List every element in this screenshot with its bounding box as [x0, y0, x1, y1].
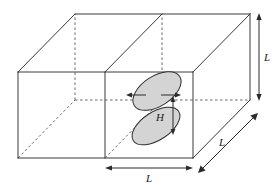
left-spread-arrowhead-icon [126, 93, 132, 98]
depth-dimension-label: L [218, 136, 225, 148]
width-arrowhead-left-icon [105, 165, 112, 170]
width-arrowhead-right-icon [186, 165, 193, 170]
depth-dimension-shaft [201, 116, 255, 170]
height-dimension-label: H [155, 111, 165, 123]
vertical-dimension: L [256, 13, 270, 101]
vertical-arrowhead-up-icon [256, 13, 261, 20]
vertical-arrowhead-down-icon [256, 94, 261, 101]
hidden-edge-bottom-left-diagonal [18, 100, 75, 158]
blob-group [126, 64, 188, 153]
right-spread-arrowhead-icon [175, 93, 181, 98]
width-dimension: L [105, 165, 193, 184]
vertical-dimension-label: L [263, 51, 270, 63]
edge-top-left-diagonal [18, 14, 75, 72]
figure-container: H L L L [0, 0, 276, 185]
width-dimension-label: L [145, 172, 152, 184]
box-diagram: H L L L [0, 0, 276, 185]
edge-top-mid-diagonal [105, 14, 162, 72]
edge-top-right-diagonal [193, 14, 250, 72]
